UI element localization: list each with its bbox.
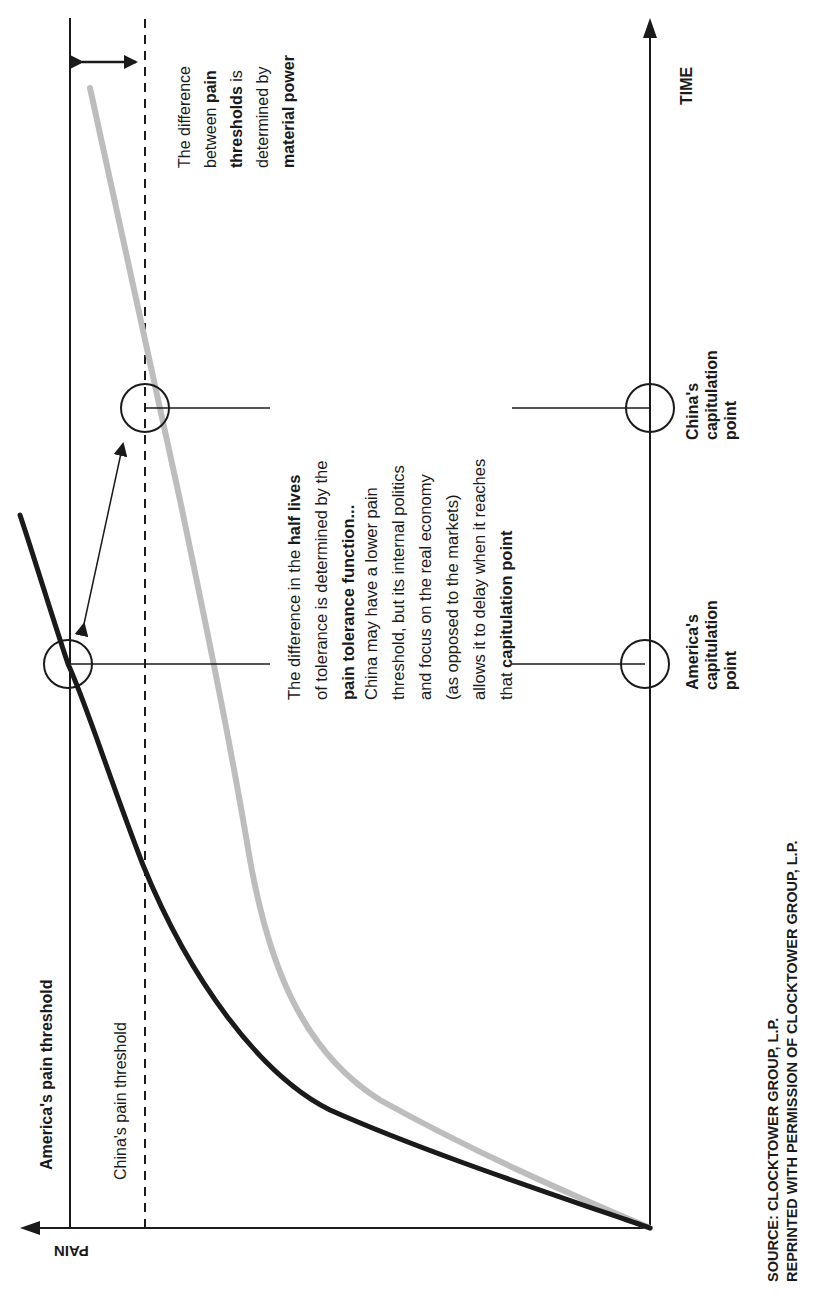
- svg-text:of tolerance is determined by: of tolerance is determined by the: [312, 461, 330, 700]
- svg-text:(as opposed to the markets): (as opposed to the markets): [443, 495, 461, 700]
- pain-axis-label: PAIN: [54, 1243, 89, 1260]
- svg-text:America's: America's: [684, 614, 701, 690]
- svg-text:REPRINTED WITH PERMISSION OF C: REPRINTED WITH PERMISSION OF CLOCKTOWER …: [784, 841, 800, 1282]
- svg-text:capitulation: capitulation: [703, 600, 720, 690]
- svg-text:allows it to delay when it rea: allows it to delay when it reaches: [470, 459, 488, 700]
- svg-text:determined by: determined by: [254, 67, 271, 168]
- svg-text:material power: material power: [280, 55, 297, 168]
- svg-text:The difference in the half liv: The difference in the half lives: [285, 475, 303, 700]
- svg-text:capitulation: capitulation: [703, 350, 720, 440]
- america-threshold-label: America's pain threshold: [38, 979, 55, 1170]
- pain-axis: [20, 1221, 650, 1235]
- svg-text:China may have a lower pain: China may have a lower pain: [362, 487, 380, 700]
- svg-text:point: point: [722, 400, 739, 440]
- svg-text:SOURCE: CLOCKTOWER GROUP, L.P.: SOURCE: CLOCKTOWER GROUP, L.P.: [765, 1018, 781, 1282]
- time-axis-arrowhead-icon: [643, 18, 657, 38]
- svg-text:point: point: [722, 650, 739, 690]
- half-lives-annotation: The difference in the half lives of tole…: [285, 459, 515, 700]
- pain-tolerance-chart: PAIN TIME America's pain threshold China…: [0, 0, 814, 1314]
- svg-text:between pain: between pain: [202, 70, 219, 168]
- threshold-difference-annotation: The difference between pain thresholds i…: [176, 55, 297, 168]
- svg-text:China's: China's: [684, 383, 701, 440]
- time-axis-label: TIME: [678, 66, 695, 105]
- america-capitulation-label: America's capitulation point: [684, 600, 739, 690]
- svg-text:The difference: The difference: [176, 66, 193, 168]
- svg-text:pain tolerance function...: pain tolerance function...: [339, 505, 357, 700]
- time-axis: [643, 18, 657, 1228]
- china-threshold-label: China's pain threshold: [112, 1022, 129, 1180]
- china-capitulation-label: China's capitulation point: [684, 350, 739, 440]
- svg-text:that capitulation point: that capitulation point: [497, 530, 515, 700]
- svg-text:thresholds is: thresholds is: [228, 70, 245, 168]
- pain-axis-arrowhead-icon: [20, 1221, 40, 1235]
- svg-text:and focus on the real economy: and focus on the real economy: [416, 474, 434, 700]
- svg-text:threshold, but its internal po: threshold, but its internal politics: [389, 465, 407, 700]
- source-credit: SOURCE: CLOCKTOWER GROUP, L.P. REPRINTED…: [765, 841, 800, 1282]
- half-lives-double-arrow-icon: [84, 444, 123, 624]
